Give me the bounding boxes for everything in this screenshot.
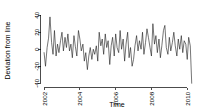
x-tick-label: 2004 [76, 91, 83, 105]
y-tick-label: 40 [33, 11, 40, 18]
x-tick-label: 2010 [184, 91, 191, 105]
y-tick-label: 20 [33, 28, 40, 35]
plot-background [0, 0, 202, 112]
y-tick-label: 0 [33, 47, 40, 51]
y-tick-label: -40 [33, 78, 40, 88]
chart-container: -40-200204020022004200620082010TimeDevia… [0, 0, 202, 112]
y-tick-label: -20 [33, 61, 40, 71]
deviation-time-series-plot: -40-200204020022004200620082010TimeDevia… [0, 0, 202, 112]
x-tick-label: 2008 [148, 91, 155, 105]
x-axis-title: Time [109, 101, 124, 108]
y-axis-title: Deviation from line [4, 21, 11, 79]
x-tick-label: 2002 [41, 91, 48, 105]
